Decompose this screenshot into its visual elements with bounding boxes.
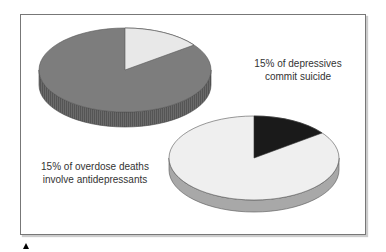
annotation-overdose: 15% of overdose deaths involve antidepre…: [40, 160, 150, 186]
annotation-line: 15% of depressives: [248, 57, 348, 70]
pie-depressives: [39, 28, 211, 127]
pie-charts: [0, 0, 386, 252]
triangle-marker-icon: [23, 243, 29, 249]
annotation-line: involve antidepressants: [40, 173, 150, 186]
annotation-depressives: 15% of depressives commit suicide: [248, 57, 348, 83]
pie-overdose: [169, 116, 339, 212]
annotation-line: commit suicide: [248, 70, 348, 83]
annotation-line: 15% of overdose deaths: [40, 160, 150, 173]
